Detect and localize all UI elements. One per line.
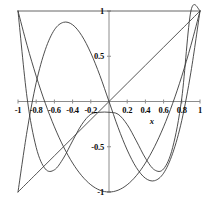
x-tick-label: -0.2 [84,106,97,115]
chebyshev-polynomial-chart: -1-0.8-0.6-0.4-0.20.20.40.60.81 10.5-0.5… [0,0,218,209]
y-tick-label: 1 [100,7,104,16]
x-tick-label: 0.6 [159,106,169,115]
x-tick-label: 0.4 [140,106,150,115]
y-tick-label: -1 [97,188,104,197]
y-tick-label: 0.5 [94,52,104,61]
x-tick-label: 1 [198,106,202,115]
x-tick-label: -0.8 [30,106,43,115]
x-tick-label: -0.6 [48,106,61,115]
y-tick-label: -0.5 [91,143,104,152]
x-tick-label: -1 [15,106,22,115]
x-axis-label: x [150,117,154,126]
x-tick-label: -0.4 [66,106,79,115]
x-tick-label: 0.2 [122,106,132,115]
x-tick-label: 0.8 [177,106,187,115]
